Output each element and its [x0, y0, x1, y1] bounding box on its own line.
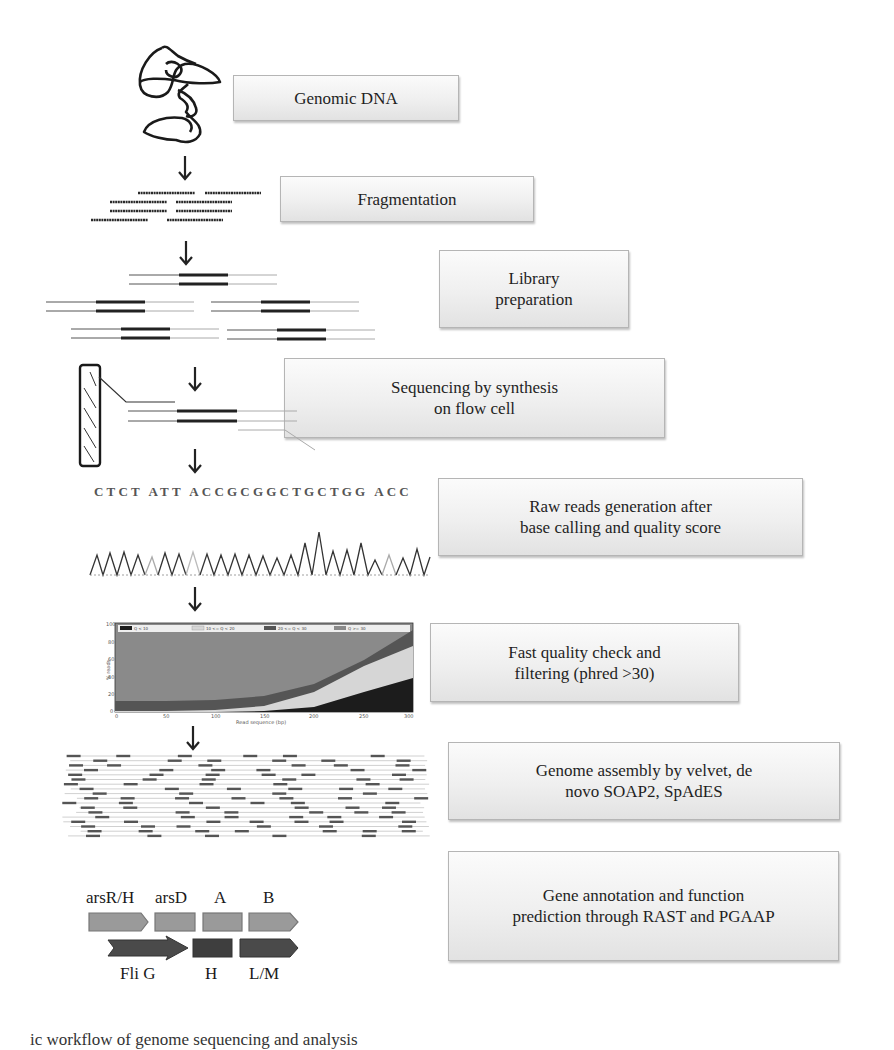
gene-label-h: H [205, 964, 217, 984]
gene-map-icon [0, 0, 894, 1000]
gene-label-flig: Fli G [120, 964, 155, 984]
figure-caption: ic workflow of genome sequencing and ana… [30, 1030, 358, 1050]
gene-label-lm: L/M [249, 964, 279, 984]
